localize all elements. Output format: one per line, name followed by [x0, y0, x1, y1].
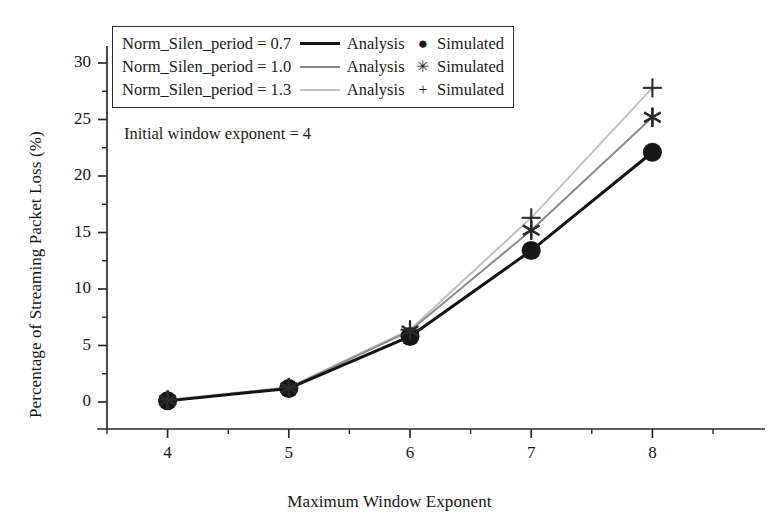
plus-marker-icon: +	[414, 82, 432, 98]
series-line	[168, 152, 653, 401]
series-markers	[159, 108, 660, 410]
x-tick-label: 7	[511, 443, 551, 463]
data-point-circle	[643, 143, 662, 162]
data-point-circle	[522, 241, 541, 260]
chart-annotation: Initial window exponent = 4	[124, 124, 311, 144]
y-tick-label: 25	[51, 109, 91, 129]
legend-simulated-label: Simulated	[432, 57, 504, 77]
x-tick-label: 6	[390, 443, 430, 463]
legend-simulated-label: Simulated	[432, 34, 504, 54]
chart-figure: Percentage of Streaming Packet Loss (%) …	[0, 0, 779, 524]
legend: Norm_Silen_period = 0.7 Analysis ● Simul…	[112, 26, 514, 108]
legend-condition-label: Norm_Silen_period = 1.3	[122, 80, 300, 100]
y-tick-label: 30	[51, 52, 91, 72]
y-axis-title: Percentage of Streaming Packet Loss (%)	[26, 131, 46, 418]
legend-simulated-label: Simulated	[432, 80, 504, 100]
y-tick-label: 15	[51, 222, 91, 242]
legend-line-swatch	[300, 42, 340, 45]
legend-row: Norm_Silen_period = 1.3 Analysis + Simul…	[122, 78, 504, 101]
y-tick-label: 5	[51, 335, 91, 355]
legend-condition-label: Norm_Silen_period = 1.0	[122, 57, 300, 77]
series-markers	[158, 143, 662, 411]
x-tick-label: 4	[148, 443, 188, 463]
legend-row: Norm_Silen_period = 1.0 Analysis ✳ Simul…	[122, 55, 504, 78]
x-tick-label: 8	[632, 443, 672, 463]
legend-row: Norm_Silen_period = 0.7 Analysis ● Simul…	[122, 32, 504, 55]
legend-line-swatch	[300, 89, 340, 91]
legend-analysis-label: Analysis	[340, 80, 414, 100]
y-tick-label: 0	[51, 391, 91, 411]
legend-condition-label: Norm_Silen_period = 0.7	[122, 34, 300, 54]
y-tick-label: 20	[51, 165, 91, 185]
legend-analysis-label: Analysis	[340, 34, 414, 54]
x-tick-label: 5	[269, 443, 309, 463]
legend-analysis-label: Analysis	[340, 57, 414, 77]
asterisk-marker-icon: ✳	[414, 59, 432, 75]
y-tick-label: 10	[51, 278, 91, 298]
legend-line-swatch	[300, 66, 340, 68]
circle-marker-icon: ●	[414, 35, 432, 52]
x-axis-title: Maximum Window Exponent	[0, 492, 779, 512]
series-line	[168, 117, 653, 400]
